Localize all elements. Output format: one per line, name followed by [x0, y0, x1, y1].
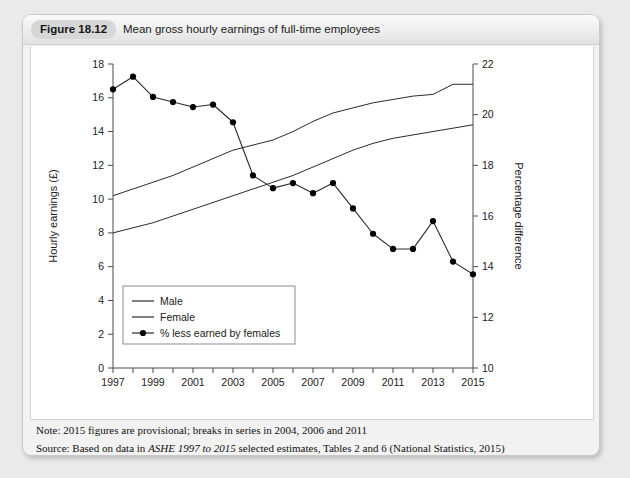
y2-axis-tick-label: 14: [482, 260, 494, 272]
y-axis-tick-label: 16: [92, 91, 104, 103]
y2-axis-tick-label: 18: [482, 159, 494, 171]
series-line-1: [113, 125, 473, 233]
data-point: [190, 104, 196, 110]
data-point: [270, 185, 276, 191]
data-point: [450, 259, 456, 265]
y-axis-tick-label: 6: [98, 260, 104, 272]
y-axis-tick-label: 0: [98, 362, 104, 374]
source-pre: Based on data in: [72, 442, 148, 454]
data-point: [150, 94, 156, 100]
page-root: Figure 18.12 Mean gross hourly earnings …: [0, 0, 630, 478]
data-point: [170, 99, 176, 105]
data-point: [310, 190, 316, 196]
y-axis-tick-label: 4: [98, 294, 104, 306]
data-point: [130, 74, 136, 80]
figure-note: Note: 2015 figures are provisional; brea…: [36, 424, 367, 436]
y-axis-tick-label: 8: [98, 226, 104, 238]
data-point: [410, 246, 416, 252]
data-point: [110, 86, 116, 92]
legend-label-female: Female: [160, 311, 195, 323]
figure-caption-bar: Figure 18.12 Mean gross hourly earnings …: [23, 15, 599, 45]
x-axis-tick-label: 2015: [461, 376, 485, 388]
y2-axis-tick-label: 12: [482, 311, 494, 323]
y2-axis-title: Percentage difference: [513, 162, 525, 269]
x-axis-tick-label: 1999: [141, 376, 165, 388]
y2-axis-tick-label: 20: [482, 108, 494, 120]
y-axis-tick-label: 14: [92, 125, 104, 137]
x-axis-tick-label: 2001: [181, 376, 205, 388]
data-point: [210, 101, 216, 107]
y2-axis-tick-label: 10: [482, 362, 494, 374]
source-label: Source:: [36, 442, 72, 454]
chart-plot-panel: 0246810121416181012141618202219971999200…: [30, 46, 594, 420]
y-axis-tick-label: 10: [92, 193, 104, 205]
legend-label-male: Male: [160, 295, 183, 307]
data-point: [330, 180, 336, 186]
y2-axis-tick-label: 22: [482, 58, 494, 70]
y-axis-title: Hourly earnings (£): [47, 169, 59, 263]
figure-box: Figure 18.12 Mean gross hourly earnings …: [22, 14, 600, 456]
figure-source: Source: Based on data in ASHE 1997 to 20…: [36, 442, 505, 454]
x-axis-tick-label: 2007: [301, 376, 325, 388]
y2-axis-tick-label: 16: [482, 210, 494, 222]
data-point: [370, 231, 376, 237]
figure-number-badge: Figure 18.12: [31, 20, 116, 39]
line-chart: 0246810121416181012141618202219971999200…: [31, 46, 595, 420]
x-axis-tick-label: 2011: [382, 376, 405, 388]
data-point: [250, 172, 256, 178]
figure-title: Mean gross hourly earnings of full-time …: [123, 20, 380, 39]
y-axis-tick-label: 2: [98, 328, 104, 340]
data-point: [470, 271, 476, 277]
x-axis-tick-label: 1997: [101, 376, 125, 388]
legend-label-pct: % less earned by females: [160, 327, 280, 339]
y-axis-tick-label: 18: [92, 58, 104, 70]
y-axis-tick-label: 12: [92, 159, 104, 171]
source-publication: ASHE 1997 to 2015: [148, 442, 236, 454]
data-point: [350, 205, 356, 211]
data-point: [390, 246, 396, 252]
legend-marker-pct: [140, 330, 146, 336]
data-point: [230, 119, 236, 125]
x-axis-tick-label: 2005: [261, 376, 285, 388]
source-post: selected estimates, Tables 2 and 6 (Nati…: [236, 442, 505, 454]
x-axis-tick-label: 2013: [421, 376, 445, 388]
x-axis-tick-label: 2003: [221, 376, 245, 388]
note-label: Note:: [36, 424, 63, 436]
note-text: 2015 figures are provisional; breaks in …: [63, 424, 367, 436]
data-point: [290, 180, 296, 186]
x-axis-tick-label: 2009: [341, 376, 365, 388]
data-point: [430, 218, 436, 224]
